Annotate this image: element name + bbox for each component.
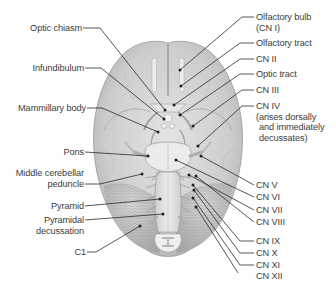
label-cn-ii: CN II	[256, 54, 276, 65]
label-c1: C1	[74, 247, 86, 258]
label-cn-v: CN V	[256, 180, 278, 191]
label-optic-tract: Optic tract	[256, 69, 297, 80]
label-cn-xii: CN XII	[256, 271, 282, 282]
label-cn-viii: CN VIII	[256, 217, 285, 228]
label-cn-iii: CN III	[256, 85, 279, 96]
label-olfactory-tract: Olfactory tract	[256, 38, 312, 49]
label-infundibulum: Infundibulum	[33, 63, 84, 74]
label-olfactory-bulb: Olfactory bulb (CN I)	[256, 12, 311, 33]
label-mammillary-body: Mammillary body	[18, 103, 86, 114]
label-cn-xi: CN XI	[256, 260, 280, 271]
label-pyramidal-decussation: Pyramidal decussation	[36, 215, 84, 236]
medulla-spinal-cord	[155, 172, 182, 252]
label-optic-chiasm: Optic chiasm	[30, 23, 82, 34]
label-middle-cerebellar-peduncle: Middle cerebellar peduncle	[16, 168, 84, 189]
pons	[145, 142, 191, 172]
label-pons: Pons	[63, 147, 84, 158]
label-cn-x: CN X	[256, 248, 278, 259]
label-cn-vii: CN VII	[256, 205, 282, 216]
label-cn-vi: CN VI	[256, 192, 280, 203]
label-cn-iv: CN IV (arises dorsally and immediately d…	[256, 101, 324, 143]
label-cn-ix: CN IX	[256, 236, 280, 247]
label-pyramid: Pyramid	[51, 201, 84, 212]
